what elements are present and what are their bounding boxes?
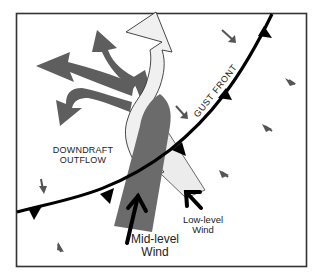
mid-level-label-line2: Wind [130,246,180,259]
low-level-wind-label: Low-level Wind [180,215,226,236]
mid-level-wind-label: Mid-level Wind [130,233,180,259]
low-level-label-line2: Wind [180,225,226,235]
downdraft-outflow-label: DOWNDRAFT OUTFLOW [48,146,118,166]
downdraft-label-line2: OUTFLOW [48,156,118,166]
